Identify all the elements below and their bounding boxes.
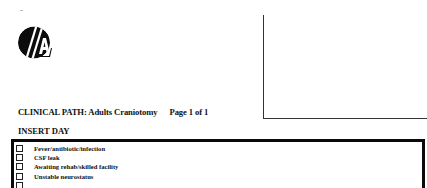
checklist-item-label: Awaiting rehab/skilled facility — [34, 163, 118, 170]
patient-label-box — [263, 15, 427, 119]
checklist-box: Fever/antibiotic/infection CSF leak Awai… — [11, 139, 425, 188]
checkbox[interactable] — [16, 154, 23, 161]
checklist: Fever/antibiotic/infection CSF leak Awai… — [16, 144, 118, 188]
checklist-item-label: CSF leak — [34, 154, 60, 161]
checklist-item: Fever/antibiotic/infection — [16, 144, 118, 153]
document-title: CLINICAL PATH: Adults Craniotomy — [18, 107, 158, 117]
document-title-line: CLINICAL PATH: Adults CraniotomyPage 1 o… — [18, 107, 208, 117]
checklist-item-label: Unstable neurostatus — [34, 173, 93, 180]
checklist-item-label: Fever/antibiotic/infection — [34, 145, 105, 152]
checkbox[interactable] — [16, 182, 23, 188]
scan-speck — [20, 10, 23, 11]
checkbox[interactable] — [16, 145, 23, 152]
checklist-item: Unstable neurostatus — [16, 172, 118, 181]
checklist-item: CSF leak — [16, 153, 118, 162]
checklist-item — [16, 181, 118, 188]
checklist-item: Awaiting rehab/skilled facility — [16, 162, 118, 171]
checkbox[interactable] — [16, 163, 23, 170]
checkbox[interactable] — [16, 173, 23, 180]
logo — [17, 26, 54, 59]
section-heading: INSERT DAY — [18, 126, 70, 136]
page-indicator: Page 1 of 1 — [170, 107, 209, 117]
circle-slash-a-logo-icon — [17, 26, 54, 59]
